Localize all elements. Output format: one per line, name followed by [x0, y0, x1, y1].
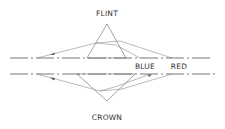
red-label: RED [171, 62, 187, 71]
crown-label: CROWN [92, 113, 122, 122]
prism-diagram: FLINT BLUE RED CROWN [0, 0, 225, 129]
upper-arrow-icon [50, 53, 55, 56]
crown-rays [37, 74, 172, 91]
lower-arrow-icon [50, 78, 55, 81]
flint-label: FLINT [96, 9, 118, 18]
blue-label: BLUE [135, 62, 155, 71]
flint-rays [37, 41, 172, 58]
